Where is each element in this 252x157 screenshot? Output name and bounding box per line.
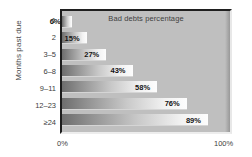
bars-container: 6% 15% 27% 43% 58% 76% <box>62 11 226 130</box>
bar <box>62 16 72 27</box>
bar-value-label: 43% <box>111 66 126 75</box>
bar-value-label: 15% <box>65 33 80 42</box>
y-tick-label: 9–11 <box>18 80 59 97</box>
bar-value-label: 6% <box>50 17 61 26</box>
x-tick-label-max: 100% <box>214 139 233 148</box>
bar-value-label: 27% <box>84 50 99 59</box>
bar-row: 27% <box>62 49 226 60</box>
bar-row: 76% <box>62 98 226 109</box>
x-tick-label-min: 0% <box>57 139 68 148</box>
plot-area: Bad debts percentage 6% 15% 27% 43% 58% <box>60 9 232 134</box>
bar-value-label: 76% <box>165 99 180 108</box>
bar-value-label: 89% <box>186 115 201 124</box>
y-tick-label: 2 <box>18 29 59 46</box>
y-tick-label: ≥24 <box>18 114 59 131</box>
bar-row: 58% <box>62 81 226 92</box>
bar-row: 43% <box>62 65 226 76</box>
bad-debts-bar-chart: Months past due 1 2 3–5 6–8 9–11 12–23 ≥… <box>0 0 252 157</box>
bar-value-label: 58% <box>135 82 150 91</box>
y-tick-label: 3–5 <box>18 46 59 63</box>
y-tick-label: 6–8 <box>18 63 59 80</box>
bar-row: 6% <box>62 16 226 27</box>
y-tick-label: 12–23 <box>18 97 59 114</box>
bar-row: 15% <box>62 32 226 43</box>
bar-row: 89% <box>62 114 226 125</box>
y-axis-tick-labels: 1 2 3–5 6–8 9–11 12–23 ≥24 <box>18 12 59 131</box>
